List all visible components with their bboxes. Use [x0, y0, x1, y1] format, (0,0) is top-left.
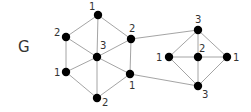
- edge-R_right-R_bottom: [198, 57, 227, 86]
- node-label-R_top: 3: [195, 14, 201, 25]
- node-R_bottom: [194, 82, 202, 90]
- edge-L_ll-L_bottom: [66, 72, 97, 98]
- node-R_right: [223, 53, 231, 61]
- node-label-R_left: 1: [156, 52, 162, 63]
- node-label-R_right: 1: [233, 52, 239, 63]
- edge-L_ur-R_top: [131, 30, 198, 39]
- graph-diagram: 122311231213 G: [0, 0, 251, 112]
- edge-L_center-L_lr: [97, 57, 130, 74]
- node-L_top: [94, 11, 102, 19]
- node-L_bottom: [93, 94, 101, 102]
- edge-L_center-L_ll: [66, 57, 97, 72]
- node-label-L_ll: 1: [54, 67, 60, 78]
- node-R_left: [165, 53, 173, 61]
- node-label-L_lr: 1: [129, 80, 135, 91]
- node-label-L_ul: 2: [54, 27, 60, 38]
- node-label-L_top: 1: [89, 1, 95, 12]
- node-L_ul: [62, 33, 70, 41]
- graph-node-labels: 122311231213: [54, 1, 239, 108]
- node-label-L_ur: 2: [129, 23, 135, 34]
- node-label-R_center: 2: [199, 43, 205, 54]
- edge-L_top-L_center: [97, 15, 98, 57]
- edge-L_top-L_ur: [98, 15, 131, 39]
- edge-L_ul-L_center: [66, 37, 97, 57]
- node-R_center: [194, 53, 202, 61]
- node-label-L_center: 3: [100, 40, 106, 51]
- node-L_ll: [62, 68, 70, 76]
- graph-edges: [66, 15, 227, 98]
- edge-L_top-L_ul: [66, 15, 98, 37]
- edge-L_lr-L_bottom: [97, 74, 130, 98]
- node-label-L_bottom: 2: [102, 97, 108, 108]
- edge-L_ur-L_lr: [130, 39, 131, 74]
- graph-name-label: G: [18, 38, 30, 56]
- node-label-R_bottom: 3: [202, 89, 208, 100]
- node-L_ur: [127, 35, 135, 43]
- node-L_lr: [126, 70, 134, 78]
- node-R_top: [194, 26, 202, 34]
- node-L_center: [93, 53, 101, 61]
- edge-R_top-R_left: [169, 30, 198, 57]
